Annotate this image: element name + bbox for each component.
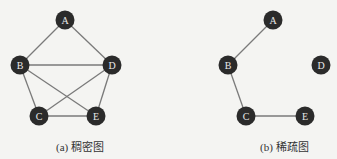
- graph-diagram: ABDCE ABDCE: [0, 0, 337, 159]
- node-label: D: [317, 60, 324, 71]
- node-label: B: [225, 60, 232, 71]
- node-B: B: [11, 56, 30, 75]
- node-E: E: [296, 107, 315, 126]
- node-label: A: [61, 15, 69, 26]
- node-label: C: [36, 111, 43, 122]
- node-label: D: [108, 60, 115, 71]
- edge-B-E: [20, 65, 96, 116]
- node-C: C: [237, 107, 256, 126]
- node-D: D: [103, 56, 122, 75]
- sparse-graph: ABDCE: [219, 11, 331, 126]
- node-label: E: [302, 111, 308, 122]
- dense-graph: ABDCE: [11, 11, 122, 126]
- dense-graph-caption: (a) 稠密图: [56, 138, 104, 154]
- node-D: D: [312, 56, 331, 75]
- edge-A-B: [228, 20, 273, 65]
- node-B: B: [219, 56, 238, 75]
- edge-A-D: [65, 20, 112, 65]
- node-label: C: [243, 111, 250, 122]
- node-E: E: [87, 107, 106, 126]
- node-A: A: [56, 11, 75, 30]
- node-label: B: [17, 60, 24, 71]
- sparse-graph-caption: (b) 稀疏图: [260, 138, 309, 154]
- node-A: A: [264, 11, 283, 30]
- edge-A-B: [20, 20, 65, 65]
- node-label: A: [269, 15, 277, 26]
- node-label: E: [93, 111, 99, 122]
- node-C: C: [30, 107, 49, 126]
